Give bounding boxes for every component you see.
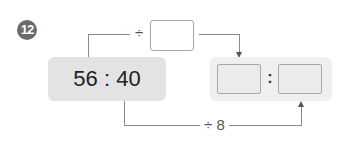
division-sign: ÷ <box>135 24 143 41</box>
divisor-input-box[interactable] <box>150 20 194 51</box>
answer-left-input[interactable] <box>217 64 261 94</box>
problem-number-badge: 12 <box>17 20 37 40</box>
top-connector-left-horizontal <box>88 34 130 35</box>
source-ratio-text: 56 : 40 <box>48 66 166 92</box>
answer-ratio-panel: : <box>210 57 332 101</box>
ratio-colon: : <box>265 69 275 87</box>
answer-right-input[interactable] <box>278 64 322 94</box>
top-connector-left-vertical <box>88 34 89 57</box>
divide-by-8-label: ÷ 8 <box>200 116 229 133</box>
top-connector-right-vertical <box>239 34 240 54</box>
top-connector-right-horizontal <box>199 34 239 35</box>
bottom-connector-right-vertical <box>301 106 302 126</box>
bottom-connector-left-vertical <box>124 101 125 126</box>
arrow-up-icon <box>298 101 304 107</box>
source-ratio-box: 56 : 40 <box>48 57 166 101</box>
